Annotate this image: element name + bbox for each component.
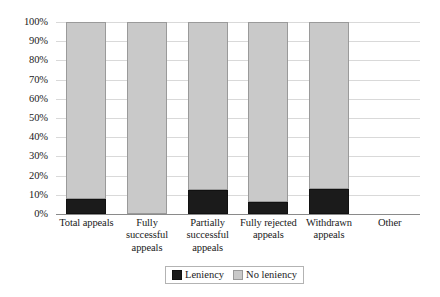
legend-item[interactable]: Leniency <box>172 268 224 281</box>
x-axis-label-line: appeals <box>162 242 254 254</box>
x-axis-label-line: appeals <box>283 229 375 241</box>
y-axis-tick-label: 50% <box>29 113 48 124</box>
bar-group[interactable] <box>248 22 288 214</box>
y-axis: 100%90%80%70%60%50%40%30%20%10%0% <box>0 0 52 297</box>
bar-stack[interactable] <box>66 22 106 214</box>
x-axis-category-label: Other <box>344 217 436 229</box>
legend-swatch-icon <box>172 270 182 280</box>
gridline <box>56 195 420 196</box>
stacked-bar-chart: 100%90%80%70%60%50%40%30%20%10%0% Total … <box>0 0 440 297</box>
y-axis-tick-label: 10% <box>29 190 48 201</box>
gridline <box>56 22 420 23</box>
y-axis-tick-label: 100% <box>24 17 48 28</box>
bar-stack[interactable] <box>127 22 167 214</box>
y-axis-tick-label: 30% <box>29 151 48 162</box>
bar-segment-no-leniency[interactable] <box>66 22 106 199</box>
gridline <box>56 60 420 61</box>
gridline <box>56 137 420 138</box>
bar-group[interactable] <box>370 22 410 214</box>
legend-label: Leniency <box>185 268 224 281</box>
bar-stack[interactable] <box>248 22 288 214</box>
bar-segment-no-leniency[interactable] <box>188 22 228 190</box>
bar-stack[interactable] <box>309 22 349 214</box>
gridline <box>56 176 420 177</box>
y-axis-tick-label: 70% <box>29 74 48 85</box>
legend-item[interactable]: No leniency <box>233 268 297 281</box>
bar-segment-leniency[interactable] <box>66 199 106 214</box>
legend-swatch-icon <box>233 270 243 280</box>
y-axis-tick-label: 80% <box>29 55 48 66</box>
y-axis-tick-label: 60% <box>29 94 48 105</box>
y-axis-tick-label: 40% <box>29 132 48 143</box>
y-axis-tick-label: 90% <box>29 36 48 47</box>
gridline <box>56 99 420 100</box>
plot-area <box>56 22 420 214</box>
gridline <box>56 80 420 81</box>
bar-group[interactable] <box>66 22 106 214</box>
bar-stack[interactable] <box>370 22 410 214</box>
bar-segment-leniency[interactable] <box>188 190 228 214</box>
bar-group[interactable] <box>188 22 228 214</box>
bar-segment-no-leniency[interactable] <box>309 22 349 189</box>
x-axis: Total appealsFullysuccessfulappealsParti… <box>56 217 420 263</box>
bar-segment-no-leniency[interactable] <box>127 22 167 214</box>
chart-legend: LeniencyNo leniency <box>165 266 304 284</box>
legend-label: No leniency <box>246 268 297 281</box>
bar-group[interactable] <box>127 22 167 214</box>
axis-baseline <box>56 214 420 215</box>
gridline <box>56 118 420 119</box>
bar-stack[interactable] <box>188 22 228 214</box>
bar-segment-leniency[interactable] <box>248 202 288 214</box>
gridline <box>56 156 420 157</box>
gridline <box>56 41 420 42</box>
bar-segment-leniency[interactable] <box>309 189 349 214</box>
bar-group[interactable] <box>309 22 349 214</box>
y-axis-tick-label: 20% <box>29 170 48 181</box>
x-axis-label-line: Other <box>344 217 436 229</box>
bar-segment-no-leniency[interactable] <box>248 22 288 202</box>
